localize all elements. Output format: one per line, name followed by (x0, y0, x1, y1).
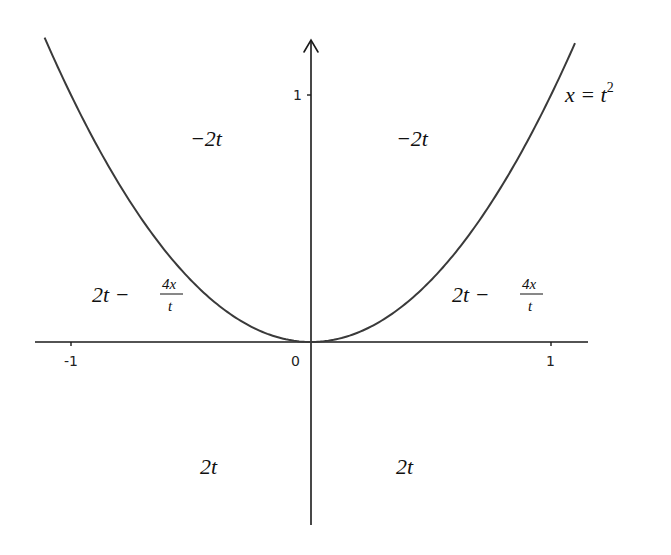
mid-right-frac-den: t (528, 298, 533, 314)
mid-left-frac-num: 4x (162, 276, 177, 292)
region-label-mid-right: 2t − 4x t (452, 276, 543, 314)
tick-label-origin: 0 (291, 353, 300, 369)
region-label-mid-left: 2t − 4x t (92, 276, 183, 314)
mid-left-frac-den: t (168, 298, 173, 314)
mid-right-prefix: 2t − (452, 282, 489, 307)
diagram-canvas: -1 0 1 1 x = t2 −2t −2t 2t − 4x t 2t − 4… (0, 0, 671, 555)
tick-label-t-pos1: 1 (546, 353, 555, 369)
region-label-lower-right: 2t (396, 454, 414, 479)
mid-left-prefix: 2t − (92, 282, 129, 307)
curve-label: x = t2 (564, 80, 614, 107)
tick-label-t-neg1: -1 (64, 353, 78, 369)
curve-label-base: x = t (564, 82, 608, 107)
region-label-upper-right: −2t (396, 126, 429, 151)
region-label-upper-left: −2t (190, 126, 223, 151)
mid-right-frac-num: 4x (522, 276, 537, 292)
region-label-lower-left: 2t (200, 454, 218, 479)
curve-label-sup: 2 (607, 80, 614, 95)
tick-label-x-pos1: 1 (293, 87, 302, 103)
